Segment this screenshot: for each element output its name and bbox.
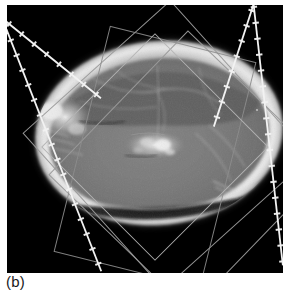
scan-canvas [7, 5, 283, 273]
ct-scan-image [7, 5, 283, 273]
figure-caption: (b) [6, 272, 25, 292]
image-artifact-speck [256, 109, 258, 111]
figure-root: (b) [0, 0, 289, 295]
